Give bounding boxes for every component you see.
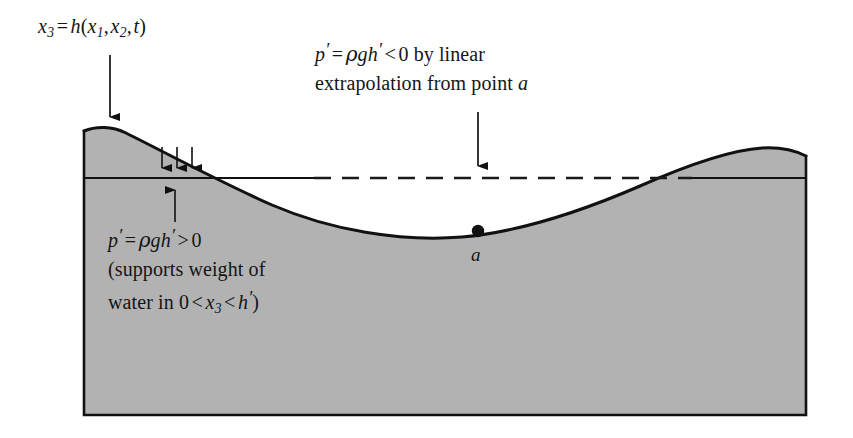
pos-p: p: [108, 229, 118, 251]
surface-arg2-sub: 2: [120, 25, 127, 40]
pos-h: h: [161, 229, 171, 251]
surface-comma-1: ,: [104, 15, 109, 37]
pos-zero: 0: [191, 229, 201, 251]
pos-line3-close: ): [252, 291, 259, 313]
negative-pressure-annotation: p′=ρgh′<0 by linear extrapolation from p…: [315, 36, 528, 98]
positive-pressure-line-3: water in 0<x3<h′): [108, 284, 265, 323]
pos-line3-x-sub: 3: [214, 301, 221, 316]
surface-close-paren: ): [139, 15, 146, 37]
pos-line3-pre: water in: [108, 291, 174, 313]
neg-line1-tail: by linear: [414, 43, 485, 65]
figure-canvas: x3=h(x1, x2, t) p′=ρgh′<0 by linear extr…: [0, 0, 853, 438]
point-a-marker: [472, 225, 484, 237]
neg-line2-text: extrapolation from point: [315, 72, 513, 94]
surface-equals: =: [54, 15, 70, 37]
neg-g: g: [358, 43, 368, 65]
surface-arg2-var: x: [111, 15, 120, 37]
surface-comma-2: ,: [127, 15, 132, 37]
negative-pressure-line-2: extrapolation from point a: [315, 69, 528, 98]
positive-pressure-line-1: p′=ρgh′>0: [108, 229, 202, 251]
neg-point-ref: a: [518, 72, 528, 94]
surface-lhs-var: x: [38, 15, 47, 37]
pos-line3-h: h: [238, 291, 248, 313]
pos-g: g: [151, 229, 161, 251]
neg-h: h: [368, 43, 378, 65]
point-a-label: a: [471, 240, 481, 269]
pos-line3-zero: 0: [179, 291, 189, 313]
neg-p: p: [315, 43, 325, 65]
pos-equals: =: [122, 229, 138, 251]
pos-line3-lt-2: <: [222, 291, 238, 313]
pos-rho: ρ: [139, 228, 151, 252]
neg-rho: ρ: [346, 42, 358, 66]
surface-arg1-sub: 1: [96, 25, 103, 40]
neg-less-than: <: [382, 43, 398, 65]
positive-pressure-annotation: p′=ρgh′>0 (supports weight of water in 0…: [108, 222, 265, 323]
neg-equals: =: [329, 43, 345, 65]
positive-pressure-line-2: (supports weight of: [108, 255, 265, 284]
negative-pressure-line-1: p′=ρgh′<0 by linear: [315, 43, 485, 65]
surface-function: h: [71, 15, 81, 37]
neg-zero: 0: [398, 43, 408, 65]
pos-line2-text: (supports weight of: [108, 258, 265, 280]
pos-greater-than: >: [175, 229, 191, 251]
pos-line3-lt-1: <: [189, 291, 205, 313]
free-surface-equation-label: x3=h(x1, x2, t): [38, 12, 146, 47]
